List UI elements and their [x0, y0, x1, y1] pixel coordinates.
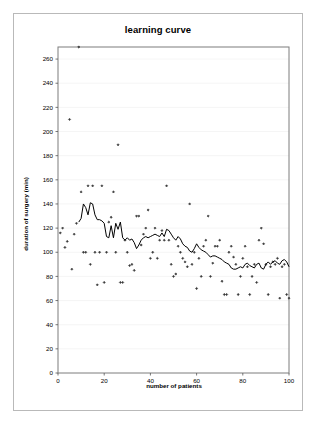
data-point — [163, 239, 165, 241]
data-point — [221, 280, 223, 282]
data-point — [242, 257, 244, 259]
data-point — [66, 240, 68, 242]
data-point — [274, 263, 276, 265]
data-point — [205, 239, 207, 241]
data-point — [281, 266, 283, 268]
data-point — [133, 269, 135, 271]
data-point — [198, 257, 200, 259]
data-point — [219, 239, 221, 241]
data-point — [78, 46, 80, 48]
data-point — [216, 245, 218, 247]
data-point — [279, 297, 281, 299]
data-point — [193, 251, 195, 253]
data-point — [260, 227, 262, 229]
data-point — [177, 245, 179, 247]
data-point — [59, 232, 61, 234]
data-point — [80, 191, 82, 193]
y-tick-label: 0 — [50, 369, 54, 376]
y-tick-label: 260 — [43, 55, 54, 62]
data-point — [154, 227, 156, 229]
data-point — [165, 185, 167, 187]
data-point — [135, 215, 137, 217]
data-point — [101, 185, 103, 187]
data-point — [147, 209, 149, 211]
data-point — [251, 275, 253, 277]
y-tick-label: 140 — [43, 200, 54, 207]
data-point — [200, 275, 202, 277]
y-tick-label: 200 — [43, 128, 54, 135]
data-point — [115, 251, 117, 253]
data-point — [126, 251, 128, 253]
y-tick-label: 240 — [43, 79, 54, 86]
data-point — [256, 281, 258, 283]
y-tick-label: 120 — [43, 224, 54, 231]
data-point — [235, 263, 237, 265]
x-axis-label: number of patients — [146, 382, 202, 389]
data-point — [267, 293, 269, 295]
data-point — [168, 239, 170, 241]
scatter-points — [59, 46, 290, 299]
data-point — [103, 281, 105, 283]
data-point — [269, 266, 271, 268]
data-point — [131, 263, 133, 265]
x-tick-label: 0 — [56, 377, 60, 384]
data-point — [108, 221, 110, 223]
moving-average-line — [79, 203, 289, 269]
data-point — [253, 263, 255, 265]
data-point — [179, 251, 181, 253]
data-point — [149, 257, 151, 259]
y-axis-ticks: 020406080100120140160180200220240260 — [43, 55, 58, 376]
y-tick-label: 180 — [43, 152, 54, 159]
data-point — [212, 262, 214, 264]
data-point — [110, 216, 112, 218]
data-point — [228, 251, 230, 253]
data-point — [145, 227, 147, 229]
data-point — [258, 239, 260, 241]
y-tick-label: 40 — [46, 321, 53, 328]
data-point — [122, 281, 124, 283]
data-point — [117, 144, 119, 146]
data-point — [158, 239, 160, 241]
data-point — [68, 118, 70, 120]
data-point — [98, 251, 100, 253]
data-point — [105, 251, 107, 253]
data-point — [288, 297, 290, 299]
data-point — [191, 263, 193, 265]
data-point — [262, 243, 264, 245]
data-point — [156, 257, 158, 259]
data-point — [172, 275, 174, 277]
y-axis-label: duration of surgery (min) — [22, 177, 29, 251]
data-point — [92, 185, 94, 187]
data-point — [209, 275, 211, 277]
data-point — [152, 251, 154, 253]
y-tick-label: 220 — [43, 104, 54, 111]
data-point — [239, 275, 241, 277]
data-point — [189, 203, 191, 205]
x-tick-label: 20 — [101, 377, 108, 384]
data-point — [96, 284, 98, 286]
data-point — [225, 293, 227, 295]
data-point — [119, 281, 121, 283]
axis-frame — [58, 47, 289, 373]
data-point — [112, 191, 114, 193]
data-point — [87, 185, 89, 187]
data-point — [286, 293, 288, 295]
x-tick-label: 100 — [284, 377, 295, 384]
data-point — [195, 287, 197, 289]
data-point — [186, 266, 188, 268]
data-point — [244, 245, 246, 247]
data-point — [75, 222, 77, 224]
data-point — [128, 264, 130, 266]
data-point — [223, 293, 225, 295]
y-tick-label: 100 — [43, 248, 54, 255]
figure-frame: learning curve 0204060801001201401601802… — [13, 13, 303, 411]
data-point — [71, 268, 73, 270]
y-tick-label: 60 — [46, 297, 53, 304]
x-tick-label: 80 — [239, 377, 246, 384]
data-point — [283, 263, 285, 265]
data-point — [246, 266, 248, 268]
data-point — [214, 245, 216, 247]
y-tick-label: 80 — [46, 273, 53, 280]
data-point — [140, 244, 142, 246]
data-point — [82, 251, 84, 253]
